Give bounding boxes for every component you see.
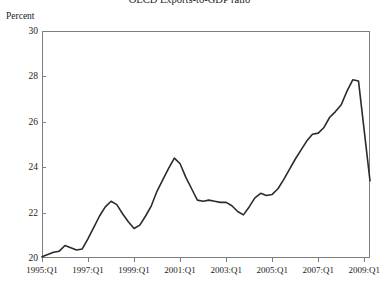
x-tick-mark <box>226 258 227 262</box>
y-tick-label: 22 <box>4 208 38 218</box>
y-tick-label: 24 <box>4 162 38 172</box>
data-series-line <box>42 31 370 258</box>
x-tick-label: 2003:Q1 <box>210 265 242 276</box>
y-tick-mark <box>42 76 46 77</box>
y-tick-label: 28 <box>4 71 38 81</box>
x-tick-label: 1997:Q1 <box>72 265 104 276</box>
x-tick-mark <box>272 258 273 262</box>
x-tick-label: 1995:Q1 <box>26 265 58 276</box>
x-tick-mark <box>134 258 135 262</box>
x-tick-label: 2007:Q1 <box>302 265 334 276</box>
x-tick-mark <box>42 258 43 262</box>
x-tick-mark <box>88 258 89 262</box>
x-tick-label: 1999:Q1 <box>118 265 150 276</box>
x-tick-mark <box>364 258 365 262</box>
x-tick-mark <box>180 258 181 262</box>
x-tick-label: 2001:Q1 <box>164 265 196 276</box>
chart-title: OECD Exports-to-GDP ratio <box>0 0 379 6</box>
y-axis-labels: 302826242220 <box>0 0 38 286</box>
y-tick-mark <box>42 167 46 168</box>
y-tick-mark <box>42 122 46 123</box>
y-tick-mark <box>42 213 46 214</box>
x-tick-label: 2005:Q1 <box>256 265 288 276</box>
x-tick-label: 2009:Q1 <box>348 265 380 276</box>
y-tick-label: 26 <box>4 117 38 127</box>
y-tick-label: 20 <box>4 253 38 263</box>
y-tick-label: 30 <box>4 26 38 36</box>
x-tick-mark <box>318 258 319 262</box>
